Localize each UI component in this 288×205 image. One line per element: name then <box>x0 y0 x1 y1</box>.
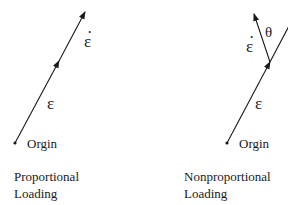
caption-line1: Proportional <box>14 168 79 185</box>
strain-rate-label: ε <box>246 38 253 55</box>
caption-line1: Nonproportional <box>184 168 271 185</box>
origin-label: Orgin <box>27 136 57 151</box>
proportional-path <box>13 12 85 145</box>
angle-label: θ <box>265 24 272 41</box>
caption-line2: Loading <box>14 185 57 202</box>
origin-label: Orgin <box>239 136 269 151</box>
strain-label: ε <box>47 95 54 112</box>
strain-rate-label: ε <box>84 33 91 50</box>
caption-line2: Loading <box>184 185 227 202</box>
strain-label: ε <box>255 95 262 112</box>
nonproportional-path <box>225 14 288 145</box>
